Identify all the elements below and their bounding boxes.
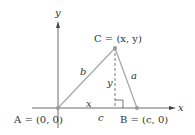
side-c-label: c: [98, 113, 104, 123]
y-axis-arrow-icon: [56, 21, 60, 28]
point-a-label: A = (0, 0): [14, 115, 63, 125]
point-b: [135, 106, 139, 110]
point-c-label: C = (x, y): [94, 34, 142, 44]
segment-x-label: x: [86, 99, 92, 109]
triangle-sides: [58, 48, 137, 108]
x-axis-arrow-icon: [169, 106, 176, 110]
point-c: [113, 46, 117, 50]
side-b-label: b: [80, 67, 86, 77]
x-axis-label: x: [178, 103, 184, 113]
y-axis-label: y: [55, 8, 61, 18]
right-angle-mark: [115, 100, 123, 108]
triangle-diagram: y x C = (x, y) A = (0, 0) B = (c, 0) b a…: [0, 0, 195, 135]
side-a-label: a: [131, 71, 137, 81]
point-b-label: B = (c, 0): [120, 115, 168, 125]
segment-y-label: y: [107, 78, 113, 88]
point-a: [56, 106, 60, 110]
